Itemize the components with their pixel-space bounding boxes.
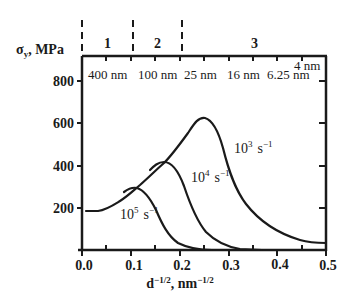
x-axis-label: d−1/2, nm−1/2 — [146, 275, 214, 291]
y-ticks — [77, 81, 326, 208]
region-label-3: 3 — [251, 36, 258, 51]
curve-label-1e3: 103s−1 — [234, 139, 273, 156]
grain-size-label-4nm: 4 nm — [294, 58, 320, 73]
region-label-1: 1 — [104, 36, 111, 51]
y-tick-600: 600 — [53, 116, 74, 131]
y-tick-800: 800 — [53, 74, 74, 89]
x-tick-0.3: 0.3 — [222, 258, 240, 273]
x-ticks — [82, 56, 326, 256]
plot-frame — [78, 56, 327, 251]
x-tick-0.2: 0.2 — [173, 258, 191, 273]
curves — [86, 118, 326, 250]
grain-size-label-400nm: 400 nm — [88, 67, 127, 82]
y-tick-200: 200 — [53, 201, 74, 216]
y-tick-400: 400 — [53, 159, 74, 174]
curve-label-1e5: 105s−1 — [120, 205, 159, 222]
curve-1e5 — [124, 188, 212, 250]
x-tick-0.4: 0.4 — [271, 257, 289, 272]
region-label-2: 2 — [154, 36, 161, 51]
x-tick-0.0: 0.0 — [75, 258, 93, 273]
chart: 1 2 3 σy, MPa 800 600 400 200 — [0, 0, 351, 307]
curve-1e3 — [86, 118, 326, 243]
curve-label-1e4: 104s−1 — [191, 168, 230, 185]
grain-size-label-100nm: 100 nm — [138, 67, 177, 82]
grain-size-label-25nm: 25 nm — [184, 67, 217, 82]
x-tick-0.1: 0.1 — [125, 258, 143, 273]
region-boundaries — [82, 20, 182, 56]
grain-size-label-16nm: 16 nm — [227, 67, 260, 82]
x-tick-0.5: 0.5 — [319, 258, 337, 273]
y-axis-label: σy, MPa — [16, 42, 64, 59]
